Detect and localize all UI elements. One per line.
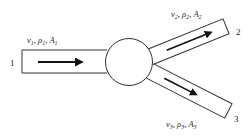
pipe-3 (146, 64, 232, 118)
pipe-1-number: 1 (10, 58, 15, 68)
pipe-2 (147, 19, 229, 65)
pipe-1 (22, 50, 107, 73)
pipe-2-number: 2 (236, 27, 241, 37)
junction-diagram: 1 2 3 v1, ρ1, A1 v2, ρ2, A2 v3, ρ3, A3 (0, 0, 248, 136)
pipe-2-properties: v2, ρ2, A2 (171, 9, 202, 20)
pipe-3-properties: v3, ρ3, A3 (166, 119, 197, 130)
flow-arrow-2 (167, 32, 212, 50)
pipe-1-properties: v1, ρ1, A1 (27, 35, 58, 46)
pipe-3-number: 3 (234, 114, 239, 124)
flow-arrow-3 (164, 78, 196, 94)
junction-circle (106, 39, 153, 86)
